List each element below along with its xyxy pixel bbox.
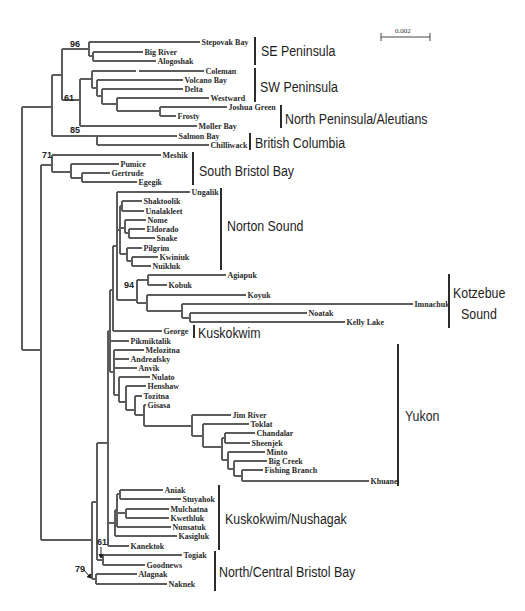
clade-label: Yukon bbox=[405, 407, 439, 425]
leaf-label: Mulchatna bbox=[171, 505, 208, 514]
leaf-label: Coleman bbox=[206, 67, 237, 76]
clade-label: North Peninsula/Aleutians bbox=[285, 110, 427, 128]
phylogenetic-tree-figure: Stepovak BayBig RiverAlogoshakColemanVol… bbox=[0, 0, 525, 611]
clade-label: Kotzebue bbox=[453, 284, 506, 302]
leaf-label: George bbox=[164, 327, 189, 336]
leaf-label: Kelly Lake bbox=[347, 318, 385, 327]
leaf-label: Minto bbox=[267, 448, 288, 457]
leaf-label: Gertrude bbox=[112, 169, 144, 178]
clade-label: South Bristol Bay bbox=[199, 162, 294, 180]
clade-groups: SE PeninsulaSW PeninsulaNorth Peninsula/… bbox=[193, 37, 506, 591]
leaf-label: Koyuk bbox=[248, 291, 272, 300]
leaf-label: Eldorado bbox=[147, 225, 179, 234]
leaf-label: Anvik bbox=[139, 364, 160, 373]
leaf-label: Moller Bay bbox=[199, 122, 237, 131]
clade-label: Norton Sound bbox=[227, 217, 303, 235]
leaf-label: Stepovak Bay bbox=[202, 38, 249, 47]
leaf-label: Kwiniuk bbox=[160, 253, 190, 262]
leaf-label: Shaktoolik bbox=[144, 197, 181, 206]
leaf-label: Volcano Bay bbox=[185, 76, 228, 85]
leaf-label: Big Creek bbox=[269, 457, 304, 466]
leaf-label: Toklat bbox=[251, 420, 273, 429]
leaf-label: Alogoshak bbox=[158, 57, 195, 66]
leaf-label: Pumice bbox=[121, 160, 147, 169]
leaf-label: Jim River bbox=[233, 411, 267, 420]
leaf-label: Aniak bbox=[165, 486, 186, 495]
leaf-label: Unalakleet bbox=[146, 207, 183, 216]
leaf-label: Chilliwack bbox=[211, 141, 248, 150]
leaf-label: Kwethluk bbox=[171, 514, 205, 523]
clade-label: North/Central Bristol Bay bbox=[219, 563, 355, 581]
clade-label: Kuskokwim/Nushagak bbox=[225, 510, 348, 528]
leaf-label: Henshaw bbox=[148, 382, 180, 391]
leaf-label: Sheenjek bbox=[252, 439, 284, 448]
leaf-label: Nome bbox=[148, 216, 168, 225]
leaf-label: Nulato bbox=[152, 373, 175, 382]
leaf-label: Andreafsky bbox=[131, 355, 171, 364]
leaf-label: Kasigluk bbox=[179, 532, 210, 541]
clade-label: SW Peninsula bbox=[260, 78, 338, 96]
bootstrap-value: 85 bbox=[70, 125, 80, 135]
bootstrap-value: 61 bbox=[97, 537, 107, 547]
leaf-label: Nuikluk bbox=[153, 262, 182, 271]
leaf-label: Frosty bbox=[178, 112, 200, 121]
leaf-label: Snake bbox=[157, 234, 178, 243]
leaf-label: Nunsatuk bbox=[173, 523, 207, 532]
leaf-label: Ungalik bbox=[192, 188, 220, 197]
leaf-label: Pilgrim bbox=[144, 244, 170, 253]
scale-bar-label: 0.002 bbox=[395, 27, 411, 35]
leaf-label: Agiapuk bbox=[228, 271, 258, 280]
leaf-label: Joshua Green bbox=[229, 103, 277, 112]
leaf-label: Delta bbox=[185, 85, 203, 94]
leaf-label: Imnachuk bbox=[415, 300, 451, 309]
leaf-label: Naknek bbox=[169, 580, 196, 589]
bootstrap-value: 96 bbox=[70, 39, 80, 49]
leaf-label: Togiak bbox=[184, 551, 208, 560]
leaf-label: Gisasa bbox=[148, 401, 171, 410]
leaf-label: Goodnews bbox=[147, 561, 183, 570]
leaf-label: Noatak bbox=[309, 309, 334, 318]
bootstrap-value: 61 bbox=[64, 93, 74, 103]
leaf-label: Fishing Branch bbox=[265, 466, 318, 475]
scale-bar: 0.002 bbox=[381, 27, 430, 41]
leaf-label: Salmon Bay bbox=[179, 132, 220, 141]
bootstrap-value: 94 bbox=[124, 280, 134, 290]
leaf-label: Big River bbox=[145, 48, 178, 57]
leaf-label: Westward bbox=[211, 94, 246, 103]
bootstrap-value: 79 bbox=[75, 564, 85, 574]
clade-label: Kuskokwim bbox=[198, 324, 261, 342]
clade-label: Sound bbox=[461, 305, 497, 323]
bootstrap-value: 71 bbox=[42, 150, 52, 160]
leaf-label: Pikmiktalik bbox=[131, 337, 172, 346]
leaf-label: Meshik bbox=[163, 151, 189, 160]
leaf-label: Kobuk bbox=[169, 281, 193, 290]
leaf-label: Stuyahok bbox=[183, 495, 216, 504]
leaf-label: Chandalar bbox=[257, 429, 294, 438]
leaf-label: Melozitna bbox=[146, 346, 180, 355]
leaf-label: Tozitna bbox=[144, 392, 170, 401]
phylogenetic-tree: Stepovak BayBig RiverAlogoshakColemanVol… bbox=[0, 0, 525, 611]
clade-label: British Columbia bbox=[255, 134, 345, 152]
leaf-label: Khuane bbox=[371, 477, 399, 486]
clade-label: SE Peninsula bbox=[261, 42, 336, 60]
leaf-label: Alagnak bbox=[139, 570, 168, 579]
leaf-label: Kanektok bbox=[131, 542, 165, 551]
leaf-label: Egegik bbox=[139, 178, 163, 187]
